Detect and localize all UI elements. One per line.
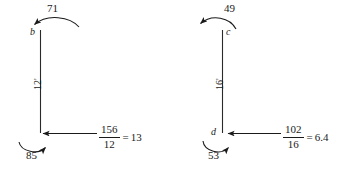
right-member-length-label: 16' [215,78,225,90]
left-force-expression: 156 12 = 13 [99,124,142,150]
left-top-moment-arc [35,18,80,27]
left-force-numerator: 156 [99,124,120,136]
right-top-moment-arc [201,18,237,29]
right-force-fraction: 102 16 [283,124,304,150]
right-top-point-label: c [226,27,230,37]
left-force-fraction: 156 12 [99,124,120,150]
left-top-moment-label: 71 [47,3,58,14]
right-force-denominator: 16 [286,139,301,151]
left-force-denominator: 12 [102,139,117,151]
right-force-numerator: 102 [283,124,304,136]
right-force-result: 6.4 [315,131,329,143]
right-bottom-point-label: d [211,127,216,137]
left-top-point-label: b [30,27,35,37]
right-force-expression: 102 16 = 6.4 [283,124,328,150]
left-equals-sign: = [123,131,129,143]
right-top-moment-label: 49 [224,3,235,14]
left-bottom-moment-label: 85 [26,150,37,161]
left-force-result: 13 [131,131,142,143]
left-member-length-label: 12' [33,78,43,90]
right-bottom-moment-label: 53 [208,150,219,161]
right-equals-sign: = [307,131,313,143]
